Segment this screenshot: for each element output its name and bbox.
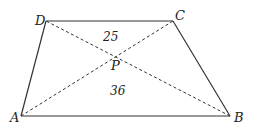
side-da (21, 21, 46, 116)
vertex-label-a: A (9, 110, 19, 125)
vertex-label-d: D (34, 13, 46, 28)
diagonal-bd (46, 21, 230, 116)
diagonal-ac (21, 21, 173, 116)
trapezoid-diagram: A B C D P 25 36 (0, 0, 254, 130)
vertex-label-b: B (233, 110, 244, 125)
intersection-label-p: P (110, 58, 120, 73)
area-label-top: 25 (102, 30, 118, 44)
vertex-label-c: C (175, 8, 185, 23)
side-bc (173, 21, 230, 116)
area-label-bottom: 36 (110, 84, 126, 98)
